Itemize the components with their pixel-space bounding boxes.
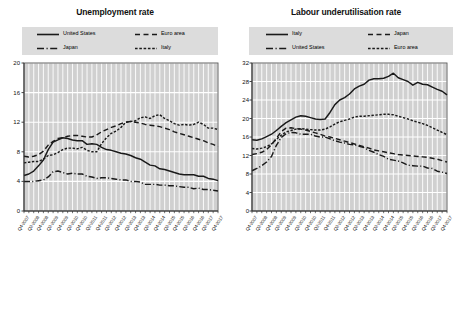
y-tick-label: 4: [233, 190, 249, 196]
y-tick-label: 12: [233, 153, 249, 159]
x-axis-labels-left: Q4-2007Q2-2008Q4-2008Q2-2009Q4-2009Q2-20…: [0, 58, 230, 118]
plot-area-left: Q4-2007Q2-2008Q4-2008Q2-2009Q4-2009Q2-20…: [0, 58, 230, 270]
chart-title-right: Labour underutilisation rate: [231, 7, 461, 17]
legend-item-left-3: Italy: [120, 45, 218, 52]
y-tick-label: 0: [4, 208, 20, 214]
y-tick-label: 28: [233, 79, 249, 85]
legend-item-right-1: Japan: [351, 31, 453, 38]
line-style-dashed-short-icon: [134, 45, 158, 52]
legend-label-left-2: Japan: [63, 45, 78, 50]
line-style-dashed-short-icon: [367, 45, 391, 52]
legend-right: Italy Japan United States Euro area: [249, 27, 453, 55]
legend-item-left-2: Japan: [22, 45, 120, 52]
legend-label-right-0: Italy: [292, 31, 302, 36]
line-style-dash-dot-icon: [265, 45, 289, 52]
legend-item-right-3: Euro area: [351, 45, 453, 52]
legend-label-right-1: Japan: [394, 31, 409, 36]
legend-item-right-0: Italy: [249, 31, 351, 38]
line-style-solid-icon: [265, 31, 289, 38]
legend-label-left-1: Euro area: [161, 31, 185, 36]
legend-left: United States Euro area Japan Italy: [22, 27, 218, 55]
y-tick-label: 20: [233, 116, 249, 122]
figure-root: Unemployment rate United States Euro are…: [0, 0, 461, 321]
legend-item-left-0: United States: [22, 31, 120, 38]
chart-panel-unemployment: Unemployment rate United States Euro are…: [0, 0, 230, 321]
y-tick-label: 4: [4, 178, 20, 184]
line-style-dash-dot-icon: [36, 45, 60, 52]
line-style-solid-icon: [36, 31, 60, 38]
y-tick-label: 12: [4, 119, 20, 125]
y-tick-label: 8: [4, 149, 20, 155]
legend-label-left-3: Italy: [161, 45, 171, 50]
line-style-dashed-long-icon: [367, 31, 391, 38]
chart-panel-underutilisation: Labour underutilisation rate Italy Japan…: [231, 0, 461, 321]
chart-title-left: Unemployment rate: [0, 7, 230, 17]
y-tick-label: 24: [233, 97, 249, 103]
line-style-dashed-long-icon: [134, 31, 158, 38]
legend-item-right-2: United States: [249, 45, 351, 52]
y-tick-label: 8: [233, 171, 249, 177]
y-tick-label: 16: [233, 134, 249, 140]
plot-area-right: Q4-2007Q2-2008Q4-2008Q2-2009Q4-2009Q2-20…: [231, 58, 461, 270]
legend-label-left-0: United States: [63, 31, 95, 36]
y-tick-label: 0: [233, 208, 249, 214]
y-tick-label: 20: [4, 60, 20, 66]
legend-item-left-1: Euro area: [120, 31, 218, 38]
y-tick-label: 32: [233, 60, 249, 66]
x-axis-labels-right: Q4-2007Q2-2008Q4-2008Q2-2009Q4-2009Q2-20…: [231, 58, 461, 118]
legend-label-right-3: Euro area: [394, 45, 418, 50]
y-tick-label: 16: [4, 90, 20, 96]
legend-label-right-2: United States: [292, 45, 324, 50]
